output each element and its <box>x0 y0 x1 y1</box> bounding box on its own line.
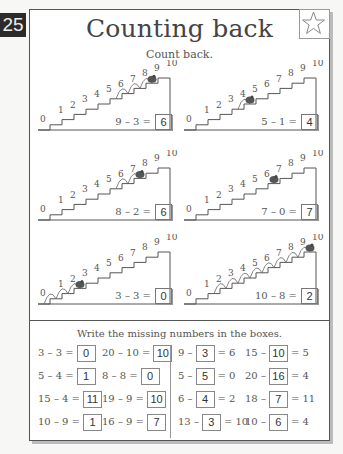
exercise: 15 –10= 5 <box>245 345 309 362</box>
exercise: 18 –7= 11 <box>245 391 315 408</box>
answer-box[interactable]: 10 <box>153 345 172 362</box>
step-label: 9 <box>154 63 160 73</box>
answer-box[interactable]: 7 <box>269 391 288 408</box>
step-label: 7 <box>130 74 136 84</box>
equation: 8 – 2 =6 <box>115 204 172 220</box>
answer-box[interactable]: 1 <box>83 414 102 431</box>
answer-box[interactable]: 0 <box>155 288 172 304</box>
answer-box[interactable]: 4 <box>301 114 318 130</box>
exercise-text: 20 – <box>245 370 266 381</box>
exercise-result: = 5 <box>291 347 309 358</box>
exercise: 9 –3= 6 <box>178 345 235 362</box>
exercise-text: 15 – <box>245 347 266 358</box>
step-label: 7 <box>276 74 282 84</box>
step-label: 1 <box>204 279 210 289</box>
step-label: 1 <box>204 105 210 115</box>
step-label: 4 <box>94 263 100 273</box>
answer-box[interactable]: 10 <box>269 345 288 362</box>
frog-icon <box>246 96 255 104</box>
answer-box[interactable]: 7 <box>147 414 166 431</box>
step-label: 5 <box>252 174 258 184</box>
answer-box[interactable]: 2 <box>301 288 318 304</box>
star-icon <box>299 9 330 39</box>
step-label: 1 <box>58 105 64 115</box>
answer-box[interactable]: 6 <box>155 114 172 130</box>
staircase-panel: 0123456789108 – 2 =6 <box>36 150 180 236</box>
step-label: 7 <box>130 248 136 258</box>
answer-box[interactable]: 0 <box>77 345 96 362</box>
step-label: 8 <box>142 158 148 168</box>
step-label: 8 <box>288 68 294 78</box>
step-label: 4 <box>94 89 100 99</box>
step-label: 0 <box>40 114 46 124</box>
exercise-text: 13 – <box>178 416 199 427</box>
equation-text: 9 – 3 = <box>115 116 151 127</box>
exercise: 19 – 9 =10 <box>102 391 169 408</box>
exercise: 6 –4= 2 <box>178 391 235 408</box>
step-label: 8 <box>288 158 294 168</box>
step-label: 2 <box>70 190 76 200</box>
step-label: 1 <box>58 279 64 289</box>
exercise-result: = 0 <box>218 370 236 381</box>
equation: 5 – 1 =4 <box>261 114 318 130</box>
exercise: 13 –3= 10 <box>178 414 248 431</box>
answer-box[interactable]: 6 <box>269 414 288 431</box>
step-label: 6 <box>118 79 124 89</box>
instruction: Write the missing numbers in the boxes. <box>30 328 329 339</box>
exercise-result: = 4 <box>291 416 309 427</box>
step-label: 5 <box>106 174 112 184</box>
step-label: 6 <box>264 169 270 179</box>
exercise: 5 – 4 =1 <box>38 368 99 385</box>
exercise: 5 –5= 0 <box>178 368 235 385</box>
step-label: 0 <box>186 114 192 124</box>
answer-box[interactable]: 11 <box>83 391 102 408</box>
step-label: 4 <box>240 263 246 273</box>
answer-box[interactable]: 5 <box>196 368 215 385</box>
exercise: 20 – 10 =10 <box>102 345 175 362</box>
equation-text: 7 – 0 = <box>261 206 297 217</box>
step-label: 9 <box>300 153 306 163</box>
answer-box[interactable]: 3 <box>202 414 221 431</box>
exercise-text: 9 – <box>178 347 193 358</box>
step-label: 4 <box>240 89 246 99</box>
step-label: 9 <box>300 63 306 73</box>
equation: 10 – 8 =2 <box>255 288 318 304</box>
answer-box[interactable]: 4 <box>196 391 215 408</box>
step-label: 10 <box>312 60 324 68</box>
step-label: 6 <box>118 169 124 179</box>
exercise: 10 –6= 4 <box>245 414 309 431</box>
exercise-text: 18 – <box>245 393 266 404</box>
step-label: 10 <box>312 234 324 242</box>
step-label: 2 <box>70 100 76 110</box>
equation-text: 10 – 8 = <box>255 290 297 301</box>
exercise-result: = 6 <box>218 347 236 358</box>
answer-box[interactable]: 3 <box>196 345 215 362</box>
answer-box[interactable]: 0 <box>141 368 160 385</box>
exercise: 10 – 9 =1 <box>38 414 105 431</box>
answer-box[interactable]: 10 <box>147 391 166 408</box>
step-label: 9 <box>300 237 306 247</box>
worksheet: Counting back Count back. 0123456789109 … <box>29 9 330 441</box>
answer-box[interactable]: 7 <box>301 204 318 220</box>
step-label: 3 <box>82 94 88 104</box>
step-label: 0 <box>186 204 192 214</box>
step-label: 7 <box>130 164 136 174</box>
step-label: 1 <box>58 195 64 205</box>
answer-box[interactable]: 6 <box>155 204 172 220</box>
exercise-text: 10 – <box>245 416 266 427</box>
equation-text: 3 – 3 = <box>115 290 151 301</box>
step-label: 2 <box>70 274 76 284</box>
step-label: 5 <box>252 258 258 268</box>
frog-icon <box>148 75 157 83</box>
exercise-text: 20 – 10 = <box>102 347 150 358</box>
step-label: 0 <box>186 288 192 298</box>
staircase-panel: 0123456789105 – 1 =4 <box>182 60 326 146</box>
answer-box[interactable]: 16 <box>269 368 288 385</box>
equation-text: 8 – 2 = <box>115 206 151 217</box>
step-label: 5 <box>106 84 112 94</box>
step-label: 2 <box>216 100 222 110</box>
answer-box[interactable]: 1 <box>77 368 96 385</box>
exercise-text: 16 – 9 = <box>102 416 144 427</box>
exercise-text: 3 – 3 = <box>38 347 74 358</box>
exercise: 3 – 3 =0 <box>38 345 99 362</box>
